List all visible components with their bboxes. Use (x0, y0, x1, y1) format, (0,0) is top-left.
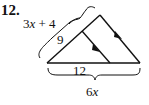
parallel-arrow-inner-icon (92, 44, 100, 52)
problem-number: 12. (1, 2, 20, 18)
parallel-segment (82, 31, 110, 63)
left-part-label: 9 (57, 32, 64, 47)
base-part-label: 12 (73, 63, 86, 78)
left-total-brace (39, 7, 95, 58)
triangle-right-side (100, 15, 140, 63)
left-total-label: 3x + 4 (23, 16, 56, 31)
base-total-label: 6x (86, 84, 99, 99)
triangle-proportionality-diagram: 12. 3x + 4 9 12 6x (0, 0, 149, 105)
parallel-arrow-outer-icon (114, 31, 122, 39)
base-total-brace (48, 68, 140, 80)
